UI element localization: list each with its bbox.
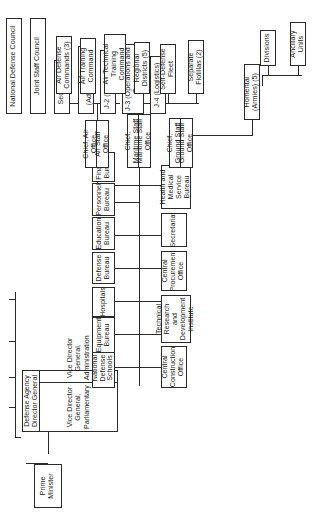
node-technical-research-institute[interactable]: Technical Research and Development Insti… <box>161 295 191 343</box>
node-equipment-bureau[interactable]: Equipment Bureau <box>92 317 115 353</box>
connector-j4-stem <box>9 299 15 300</box>
node-dg-title: Defense Agency Director General <box>23 371 40 431</box>
node-national-defense-schools[interactable]: National Defense Schools <box>92 348 115 388</box>
connector-bureau-stem-2 <box>115 334 139 335</box>
connector-j1-stem <box>9 407 15 408</box>
node-maritime-staff-office[interactable]: Maritime Staff Office <box>139 115 150 167</box>
node-air-staff-group[interactable]: Chief, Air Office Air Staff Office <box>85 120 109 168</box>
connector-office-stem-5 <box>139 235 161 236</box>
node-education-bureau[interactable]: Education Bureau <box>92 217 115 250</box>
node-defense-bureau[interactable]: Defense Bureau <box>92 252 115 284</box>
connector-self-defense-fleet <box>168 94 169 104</box>
node-personnel-bureau[interactable]: Personnel Bureau <box>92 183 115 216</box>
node-agency-secretariat[interactable]: Secretariat <box>161 213 187 247</box>
connector-bureau-stem-6 <box>115 202 139 203</box>
node-ground-staff-group[interactable]: Chief, Ground Staff Ground Staff Office <box>169 118 193 168</box>
connector-homentai-stem <box>262 76 263 86</box>
node-maritime-staff-group[interactable]: Chief, Maritime Staff Maritime Staff Off… <box>127 114 151 168</box>
node-ancillary-units[interactable]: Ancillary Units <box>290 22 306 66</box>
connector-office-stem-4 <box>139 268 161 269</box>
node-air-technical-training-command[interactable]: Air Technical Training Command <box>104 34 126 94</box>
node-central-construction-office[interactable]: Central Construction Office <box>161 346 187 388</box>
node-regional-districts[interactable]: Regional Districts (5) <box>134 42 150 94</box>
connector-homentai-in <box>252 120 253 136</box>
connector-bureau-stem-3 <box>115 301 139 302</box>
connector-to-maritime-chief <box>139 168 140 186</box>
connector-bureau-stem-1 <box>115 367 139 368</box>
node-air-training-command[interactable]: Air Training Command <box>80 38 96 94</box>
node-separate-flotillas[interactable]: Separate Flotillas (2) <box>188 40 204 94</box>
connector-maritime-bus <box>139 103 199 104</box>
node-homentai[interactable]: Homentai (Armies) (5) <box>244 64 260 120</box>
connector-air-commands-lead <box>97 104 98 120</box>
connector-j2-stem <box>9 377 15 378</box>
node-health-medical-bureau[interactable]: Health and Medical Service Bureau <box>161 165 191 209</box>
node-national-defense-council[interactable]: National Defense Council <box>6 18 22 114</box>
connector-joint-bus <box>15 292 16 438</box>
connector-secretariat-stem <box>15 437 21 438</box>
connector-j3-stem <box>9 341 15 342</box>
node-central-procurement-office[interactable]: Central Procurement Office <box>161 251 187 291</box>
node-self-defense-fleet[interactable]: Self-Defense Fleet <box>160 44 176 94</box>
connector-bureau-stem-4 <box>115 268 139 269</box>
connector-pm-to-dg <box>48 432 49 454</box>
org-chart-canvas: Prime Minister National Defense Council … <box>0 0 334 516</box>
connector-office-stem-1 <box>139 367 161 368</box>
node-ground-staff-office[interactable]: Ground Staff Office <box>181 119 192 167</box>
node-hospitals[interactable]: Hospitals <box>92 287 115 317</box>
connector-separate-flotillas <box>196 94 197 104</box>
connector-divisions <box>268 66 269 76</box>
node-joint-staff-council[interactable]: Joint Staff Council <box>30 18 46 114</box>
connector-bureau-stem-5 <box>115 235 139 236</box>
node-air-staff-office[interactable]: Air Staff Office <box>97 121 108 167</box>
node-divisions[interactable]: Divisions <box>260 30 276 66</box>
node-prime-minister[interactable]: Prime Minister <box>34 464 62 508</box>
connector-ancillary-units <box>298 66 299 76</box>
node-vice-dg-parliamentary[interactable]: Vice Director General, Parliamentary <box>40 382 117 431</box>
node-air-defense-commands[interactable]: Air Defense Commands (3) <box>56 36 72 94</box>
